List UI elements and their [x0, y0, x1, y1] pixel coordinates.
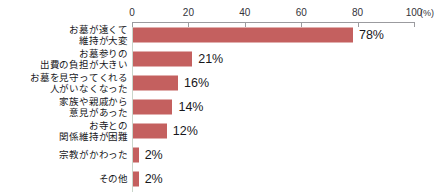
bar-value-label: 16% — [184, 77, 209, 90]
bar-value-label: 2% — [145, 173, 163, 186]
x-axis-tick-label: 40 — [239, 8, 250, 18]
bar-rows: お墓が遠くて 維持が大変78%お墓参りの 出費の負担が大きい21%お墓を見守って… — [0, 23, 442, 191]
bar-value-label: 14% — [178, 101, 203, 114]
x-axis-tick-label: 20 — [183, 8, 194, 18]
horizontal-bar-chart: 020406080100 (%) お墓が遠くて 維持が大変78%お墓参りの 出費… — [0, 7, 442, 196]
x-axis-tick-label: 80 — [352, 8, 363, 18]
bar — [133, 172, 139, 187]
bar-row: その他2% — [0, 167, 442, 191]
x-axis-tick-label: 0 — [129, 8, 135, 18]
bar-row: お寺との 関係維持が困難12% — [0, 119, 442, 143]
clipped-heading: お墓の引っ越しを考えた理由（複数回答） — [0, 0, 442, 7]
bar-category-label: お墓参りの 出費の負担が大きい — [40, 49, 128, 70]
bar-row: お墓が遠くて 維持が大変78% — [0, 23, 442, 47]
bar-row: お墓を見守ってくれる 人がいなくなった16% — [0, 71, 442, 95]
bar — [133, 148, 139, 163]
bar — [133, 52, 192, 67]
bar-value-label: 78% — [359, 29, 384, 42]
bar-category-label: お墓を見守ってくれる 人がいなくなった — [30, 73, 128, 94]
bar-row: お墓参りの 出費の負担が大きい21% — [0, 47, 442, 71]
bar-value-label: 12% — [173, 125, 198, 138]
bar-category-label: お寺との 関係維持が困難 — [59, 121, 128, 142]
bar-row: 家族や親戚から 意見があった14% — [0, 95, 442, 119]
bar-category-label: お墓が遠くて 維持が大変 — [69, 25, 128, 46]
bar — [133, 28, 353, 43]
clipped-heading-text: お墓の引っ越しを考えた理由（複数回答） — [2, 0, 211, 1]
x-axis-unit-label: (%) — [420, 8, 434, 18]
bar-category-label: 家族や親戚から 意見があった — [59, 97, 128, 118]
bar-value-label: 2% — [145, 149, 163, 162]
x-axis-tick-label: 60 — [296, 8, 307, 18]
bar-row: 宗教がかわった2% — [0, 143, 442, 167]
bar — [133, 76, 178, 91]
bar-category-label: 宗教がかわった — [59, 150, 128, 161]
bar — [133, 124, 167, 139]
bar-category-label: その他 — [99, 174, 128, 185]
bar — [133, 100, 172, 115]
bar-value-label: 21% — [198, 53, 223, 66]
